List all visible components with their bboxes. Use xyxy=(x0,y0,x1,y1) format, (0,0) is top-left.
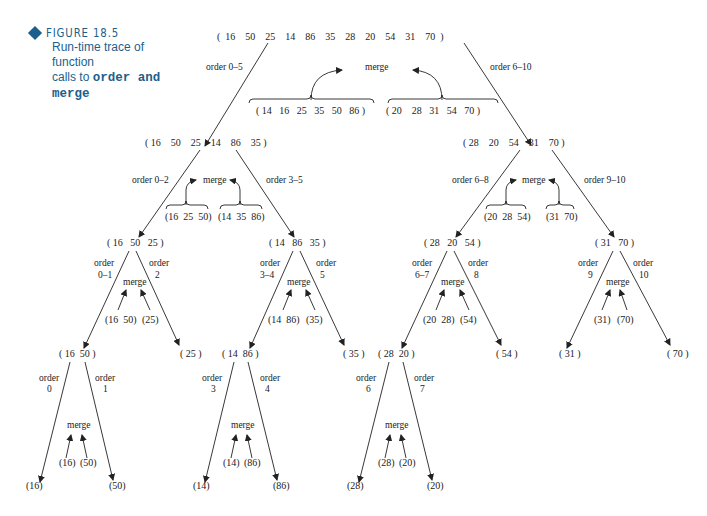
merge-arrow xyxy=(283,290,291,310)
merged-list: (86) xyxy=(244,457,261,469)
brace xyxy=(220,201,262,209)
merge-arrow xyxy=(118,290,126,310)
sublist: ( 14 86 ) xyxy=(222,348,259,360)
leaf-list: (16) xyxy=(26,480,43,492)
call-label: order 0–5 xyxy=(206,62,243,72)
call-label: 0 xyxy=(47,384,52,394)
call-label: 6 xyxy=(366,384,371,394)
merged-list: (14 86) xyxy=(268,314,300,326)
merge-label: merge xyxy=(441,277,465,287)
brace xyxy=(249,95,374,103)
merge-label: merge xyxy=(606,277,630,287)
merge-arrow xyxy=(602,290,610,310)
call-label: order 0–2 xyxy=(132,175,169,185)
merge-arrow xyxy=(231,435,236,458)
call-label: order xyxy=(39,373,60,383)
merged-list: (20 28) xyxy=(423,314,455,326)
merge-arrow xyxy=(82,435,87,458)
leaf-list: (20) xyxy=(427,480,444,492)
sublist: ( 16 50 25 ) xyxy=(107,237,164,249)
merge-arrow xyxy=(620,290,627,310)
merge-arrow xyxy=(413,70,442,100)
merged-list: ( 20 28 31 54 70 ) xyxy=(386,105,480,117)
leaf-list: (86) xyxy=(273,480,290,492)
call-label: order 6–8 xyxy=(452,175,489,185)
call-label: 9 xyxy=(588,270,593,280)
merge-label: merge xyxy=(203,175,227,185)
root-list: ( 16 50 25 14 86 35 28 20 54 31 70 ) xyxy=(217,31,444,43)
call-label: order xyxy=(633,258,654,268)
call-label: order xyxy=(95,373,116,383)
sublist: ( 31 70 ) xyxy=(595,237,634,249)
call-label: order xyxy=(260,258,281,268)
call-label: 8 xyxy=(474,270,479,280)
merged-list: (16 25 50) xyxy=(165,211,212,223)
brace xyxy=(166,201,208,209)
call-label: order xyxy=(316,258,337,268)
call-label: order xyxy=(468,258,489,268)
merged-list: (54) xyxy=(460,314,477,326)
merged-list: (16) xyxy=(59,457,76,469)
merge-arrow xyxy=(230,180,240,205)
brace xyxy=(388,95,498,103)
sublist: ( 28 20 54 ) xyxy=(424,237,481,249)
sublist: ( 35 ) xyxy=(343,348,365,360)
call-label: 10 xyxy=(639,270,649,280)
call-label: 1 xyxy=(103,384,108,394)
call-arrow xyxy=(139,150,200,237)
merge-arrow xyxy=(141,290,150,310)
merged-list: (28) xyxy=(378,457,395,469)
call-label: order 9–10 xyxy=(584,175,626,185)
call-arrow xyxy=(552,150,614,237)
merge-arrow xyxy=(66,435,71,458)
call-label: 7 xyxy=(420,384,425,394)
call-label: order xyxy=(260,373,281,383)
merge-arrow xyxy=(311,70,342,100)
call-label: 6–7 xyxy=(415,270,430,280)
merge-arrow xyxy=(385,435,390,458)
leaf-list: (14) xyxy=(193,480,210,492)
merge-arrow xyxy=(506,180,516,205)
merged-list: (31 70) xyxy=(546,211,578,223)
merged-list: (20 28 54) xyxy=(484,211,531,223)
merge-arrow xyxy=(549,180,559,205)
call-label: order 3–5 xyxy=(266,175,303,185)
merge-arrow xyxy=(247,435,252,458)
call-label: order xyxy=(149,258,170,268)
merged-list: (14 35 86) xyxy=(218,211,265,223)
merge-label: merge xyxy=(67,420,91,430)
merge-label: merge xyxy=(385,420,409,430)
merge-arrow xyxy=(401,435,406,458)
call-label: order xyxy=(414,373,435,383)
merged-list: (50) xyxy=(80,457,97,469)
call-arrow xyxy=(464,43,531,145)
call-label: order 6–10 xyxy=(490,62,532,72)
merge-arrow xyxy=(460,290,469,310)
sublist: ( 31 ) xyxy=(559,348,581,360)
merge-arrow xyxy=(306,290,315,310)
merge-sort-trace-diagram: ( 16 50 25 14 86 35 28 20 54 31 70 ) ord… xyxy=(0,0,707,516)
merged-list: (20) xyxy=(399,457,416,469)
merged-list: (14) xyxy=(223,457,240,469)
call-label: order xyxy=(578,258,599,268)
call-label: order xyxy=(412,258,433,268)
merge-arrow xyxy=(436,290,444,310)
merged-list: ( 14 16 25 35 50 86 ) xyxy=(256,105,365,117)
merge-label: merge xyxy=(522,175,546,185)
sublist: ( 25 ) xyxy=(180,348,202,360)
merge-arrow xyxy=(186,180,196,205)
call-label: order xyxy=(356,373,377,383)
merged-list: (31) xyxy=(594,314,611,326)
call-label: 4 xyxy=(265,384,270,394)
merged-list: (70) xyxy=(617,314,634,326)
sublist: ( 54 ) xyxy=(496,348,518,360)
call-label: order xyxy=(202,373,223,383)
sublist: ( 16 50 25 14 86 35 ) xyxy=(145,137,267,149)
sublist: ( 28 20 ) xyxy=(378,348,415,360)
call-label: 0–1 xyxy=(98,270,113,280)
brace xyxy=(546,201,574,209)
merged-list: (25) xyxy=(142,314,159,326)
merge-label: merge xyxy=(231,420,255,430)
call-arrow xyxy=(236,150,294,237)
merged-list: (35) xyxy=(306,314,323,326)
